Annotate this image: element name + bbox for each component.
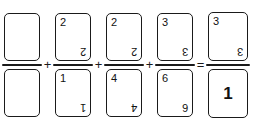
card-corner-bottom-right: 6 xyxy=(182,102,188,113)
card-corner-top-left: 4 xyxy=(111,73,117,84)
fraction-bar-1 xyxy=(2,64,42,66)
card-numerator-1[interactable] xyxy=(4,13,40,61)
card-corner-top-left: 3 xyxy=(213,16,219,27)
operator-plus-2: + xyxy=(93,58,104,72)
fraction-term-2[interactable]: 2 2 1 1 xyxy=(53,13,93,117)
card-corner-top-left: 2 xyxy=(60,17,66,28)
answer-value: 1 xyxy=(209,70,247,117)
fraction-bar-2 xyxy=(53,64,93,66)
card-corner-bottom-right: 3 xyxy=(237,46,243,57)
card-corner-top-left: 3 xyxy=(162,17,168,28)
card-numerator-3[interactable]: 2 2 xyxy=(106,13,142,61)
fraction-equation: + 2 2 1 1 + 2 2 4 4 + 3 3 6 xyxy=(0,0,264,130)
fraction-term-4[interactable]: 3 3 6 6 xyxy=(155,13,195,117)
card-corner-bottom-right: 3 xyxy=(182,46,188,57)
card-numerator-4[interactable]: 3 3 xyxy=(157,13,193,61)
card-corner-top-left: 2 xyxy=(111,17,117,28)
card-corner-bottom-right: 2 xyxy=(131,46,137,57)
card-corner-top-left: 6 xyxy=(162,73,168,84)
fraction-bar-5 xyxy=(206,64,250,66)
card-corner-bottom-right: 1 xyxy=(80,102,86,113)
card-numerator-5[interactable]: 3 3 xyxy=(208,12,248,61)
fraction-bar-4 xyxy=(155,64,195,66)
card-corner-bottom-right: 2 xyxy=(80,46,86,57)
card-denominator-3[interactable]: 4 4 xyxy=(106,69,142,117)
operator-plus-3: + xyxy=(144,58,155,72)
operator-equals: = xyxy=(195,58,206,72)
card-denominator-4[interactable]: 6 6 xyxy=(157,69,193,117)
card-corner-bottom-right: 4 xyxy=(131,102,137,113)
fraction-term-1[interactable] xyxy=(2,13,42,117)
card-denominator-5-answer[interactable]: 1 xyxy=(208,69,248,118)
card-denominator-1[interactable] xyxy=(4,69,40,117)
fraction-bar-3 xyxy=(104,64,144,66)
card-numerator-2[interactable]: 2 2 xyxy=(55,13,91,61)
fraction-term-3[interactable]: 2 2 4 4 xyxy=(104,13,144,117)
card-denominator-2[interactable]: 1 1 xyxy=(55,69,91,117)
operator-plus-1: + xyxy=(42,58,53,72)
fraction-term-5-result[interactable]: 3 3 1 xyxy=(206,12,250,118)
card-corner-top-left: 1 xyxy=(60,73,66,84)
